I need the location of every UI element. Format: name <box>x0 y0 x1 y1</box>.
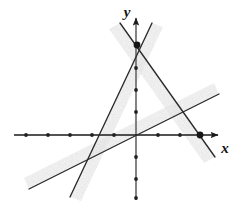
y-tick <box>134 110 138 114</box>
x-tick <box>90 133 94 137</box>
x-tick <box>156 133 160 137</box>
apex-vertex-marker <box>134 42 141 49</box>
y-tick <box>134 155 138 159</box>
x-tick <box>24 133 28 137</box>
x-tick <box>112 133 116 137</box>
y-tick <box>134 196 138 200</box>
y-axis-label: y <box>122 4 131 20</box>
right-intercept-marker <box>197 132 204 139</box>
x-tick <box>68 133 72 137</box>
x-tick <box>46 133 50 137</box>
x-tick <box>178 133 182 137</box>
figure-root: y x <box>0 0 241 205</box>
y-tick <box>134 66 138 70</box>
x-axis-label: x <box>220 140 229 156</box>
coordinate-plane-figure: y x <box>0 0 241 205</box>
y-tick <box>134 88 138 92</box>
y-tick <box>134 177 138 181</box>
